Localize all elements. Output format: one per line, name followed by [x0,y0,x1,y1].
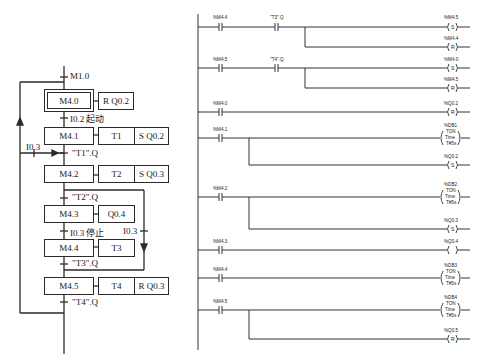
transition-label: I0.2 起动 [70,112,105,125]
action-t3: T3 [98,239,135,257]
action-q0-4: Q0.4 [98,205,135,223]
coil-label: %Q0.2 [444,101,458,106]
transition-label: "T4".Q [72,297,98,307]
action-r-q0-3: R Q0.3 [134,277,169,295]
coil-label: %M4.4 [444,36,458,41]
set-coil-icon: S [451,162,454,168]
step-m4-4[interactable]: M4.4 [44,239,94,257]
contact-label: "T4".Q [270,57,283,62]
timer-sub: Time [445,275,455,280]
step-m4-0[interactable]: M4.0 [44,89,94,112]
coil-label: %Q0.2 [444,154,458,159]
contact-label: %M4.5 [213,299,227,304]
transition-label: "T2".Q [72,192,98,202]
transition-label: "T3".Q [72,258,98,268]
action-s-q0-3: S Q0.3 [134,165,169,183]
timer-sub: Time [445,307,455,312]
timer-type: TON [446,129,456,134]
step-m4-1[interactable]: M4.1 [44,127,94,145]
contact-label: "T3".Q [270,15,283,20]
timer-sub: Time [445,135,455,140]
contact-label: %M4.1 [213,127,227,132]
timer-type: TON [446,301,456,306]
timer-db-label: %DB2 [444,182,457,187]
action-r-q0-2: R Q0.2 [98,92,134,110]
reset-coil-icon: R [451,109,455,115]
reset-coil-icon: R [451,85,455,91]
coil-label: %M4.0 [444,57,458,62]
contact-label: %M4.2 [213,186,227,191]
contact-label: %M4.0 [213,101,227,106]
action-t2: T2 [98,165,135,183]
initial-transition-label: M1.0 [70,71,89,81]
transition-label: I0.3 停止 [70,226,105,239]
set-coil-icon: S [451,226,454,232]
coil-label: %Q0.4 [444,239,458,244]
set-coil-icon: S [451,24,454,30]
timer-preset: T#5s [446,141,456,146]
contact-label: %M4.4 [213,267,227,272]
timer-preset: T#5s [446,313,456,318]
coil-label: %M4.5 [444,77,458,82]
step-label: M4.0 [47,92,91,109]
contact-label: %M4.4 [213,15,227,20]
step-m4-3[interactable]: M4.3 [44,205,94,223]
contact-label: %M4.3 [213,239,227,244]
timer-type: TON [446,188,456,193]
coil-label: %Q0.5 [444,328,458,333]
set-coil-icon: S [451,65,454,71]
branch-right-label: I0.3 [123,226,137,236]
timer-preset: T#5s [446,200,456,205]
transition-label: "T1".Q [72,148,98,158]
timer-sub: Time [445,194,455,199]
action-t1: T1 [98,127,135,145]
reset-coil-icon: R [451,44,455,50]
action-t4: T4 [98,277,135,295]
step-m4-2[interactable]: M4.2 [44,165,94,183]
branch-left-label: I0.3 [26,142,40,152]
reset-coil-icon: R [451,336,455,342]
contact-label: %M4.5 [213,57,227,62]
timer-db-label: %DB1 [444,123,457,128]
timer-db-label: %DB4 [444,295,457,300]
coil-label: %M4.5 [444,15,458,20]
timer-preset: T#5s [446,281,456,286]
timer-type: TON [446,269,456,274]
coil-label: %Q0.3 [444,218,458,223]
action-s-q0-2: S Q0.2 [134,127,169,145]
timer-db-label: %DB3 [444,263,457,268]
step-m4-5[interactable]: M4.5 [44,277,94,295]
